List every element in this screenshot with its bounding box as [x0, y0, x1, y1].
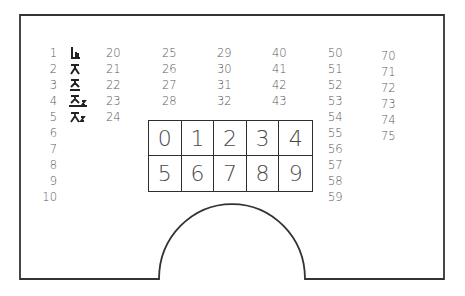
label-2: 2 — [37, 61, 57, 77]
person-icon — [68, 62, 82, 76]
label-41: 41 — [272, 61, 287, 77]
label-54: 54 — [328, 109, 343, 125]
label-20: 20 — [106, 45, 121, 61]
label-5: 5 — [37, 109, 57, 125]
label-55: 55 — [328, 125, 343, 141]
label-23: 23 — [106, 93, 121, 109]
digit-cell-9: 9 — [279, 156, 312, 191]
label-53: 53 — [328, 93, 343, 109]
label-29: 29 — [217, 45, 232, 61]
label-58: 58 — [328, 173, 343, 189]
label-42: 42 — [272, 77, 287, 93]
digit-cell-7: 7 — [214, 156, 247, 191]
label-40: 40 — [272, 45, 287, 61]
person-2-icon — [68, 110, 88, 124]
label-9: 9 — [37, 173, 57, 189]
label-3: 3 — [37, 77, 57, 93]
label-31: 31 — [217, 77, 232, 93]
column-3: 25 26 27 28 — [162, 45, 177, 109]
digit-cell-5: 5 — [149, 156, 182, 191]
digit-cell-2: 2 — [214, 121, 247, 156]
seated-person-2-icon — [68, 94, 88, 108]
label-43: 43 — [272, 93, 287, 109]
column-5: 40 41 42 43 — [272, 45, 287, 109]
digit-grid: 0 1 2 3 4 5 6 7 8 9 — [148, 120, 313, 192]
digit-cell-1: 1 — [182, 121, 215, 156]
label-7: 7 — [37, 141, 57, 157]
label-28: 28 — [162, 93, 177, 109]
label-56: 56 — [328, 141, 343, 157]
label-72: 72 — [381, 80, 396, 96]
label-75: 75 — [381, 128, 396, 144]
seat-icon — [68, 46, 82, 60]
digit-cell-6: 6 — [182, 156, 215, 191]
column-1-numbers: 1 2 3 4 5 6 7 8 9 10 — [37, 45, 57, 205]
label-52: 52 — [328, 77, 343, 93]
label-4: 4 — [37, 93, 57, 109]
digit-cell-4: 4 — [279, 121, 312, 156]
label-57: 57 — [328, 157, 343, 173]
label-71: 71 — [381, 64, 396, 80]
label-51: 51 — [328, 61, 343, 77]
label-1: 1 — [37, 45, 57, 61]
label-26: 26 — [162, 61, 177, 77]
label-27: 27 — [162, 77, 177, 93]
label-50: 50 — [328, 45, 343, 61]
label-59: 59 — [328, 189, 343, 205]
label-30: 30 — [217, 61, 232, 77]
label-25: 25 — [162, 45, 177, 61]
label-74: 74 — [381, 112, 396, 128]
digit-cell-0: 0 — [149, 121, 182, 156]
label-70: 70 — [381, 48, 396, 64]
label-8: 8 — [37, 157, 57, 173]
column-4: 29 30 31 32 — [217, 45, 232, 109]
label-24: 24 — [106, 109, 121, 125]
label-10: 10 — [37, 189, 57, 205]
column-2: 20 21 22 23 24 — [106, 45, 121, 125]
label-32: 32 — [217, 93, 232, 109]
label-73: 73 — [381, 96, 396, 112]
seated-person-icon — [68, 78, 82, 92]
digit-cell-3: 3 — [247, 121, 280, 156]
label-22: 22 — [106, 77, 121, 93]
digit-cell-8: 8 — [247, 156, 280, 191]
column-6: 50 51 52 53 54 55 56 57 58 59 — [328, 45, 343, 205]
label-6: 6 — [37, 125, 57, 141]
column-7: 70 71 72 73 74 75 — [381, 48, 396, 144]
label-21: 21 — [106, 61, 121, 77]
